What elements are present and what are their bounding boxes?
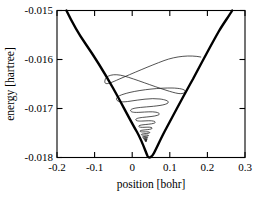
x-axis-top-ticks xyxy=(57,11,245,17)
x-tick-label: 0.3 xyxy=(238,161,252,173)
figure-container: -0.2 -0.1 0 0.1 0.2 0.3 -0.018 -0.017 -0… xyxy=(0,0,260,199)
x-tick-labels: -0.2 -0.1 0 0.1 0.2 0.3 xyxy=(48,161,252,173)
x-axis-title: position [bohr] xyxy=(117,178,186,191)
y-axis-title: energy [hartree] xyxy=(4,47,17,121)
x-tick-label: 0.2 xyxy=(201,161,215,173)
y-tick-labels: -0.018 -0.017 -0.016 -0.015 xyxy=(25,4,54,163)
y-axis-right-ticks xyxy=(240,11,246,158)
chart-canvas: -0.2 -0.1 0 0.1 0.2 0.3 -0.018 -0.017 -0… xyxy=(0,0,260,199)
x-tick-label: 0 xyxy=(129,161,135,173)
potential-energy-curve xyxy=(66,11,232,158)
y-tick-label: -0.016 xyxy=(25,53,54,65)
x-tick-label: -0.1 xyxy=(86,161,103,173)
y-tick-label: -0.015 xyxy=(25,4,54,16)
y-axis-ticks xyxy=(57,11,63,158)
y-tick-label: -0.017 xyxy=(25,102,54,114)
y-tick-label: -0.018 xyxy=(25,151,54,163)
x-tick-label: 0.1 xyxy=(163,161,177,173)
